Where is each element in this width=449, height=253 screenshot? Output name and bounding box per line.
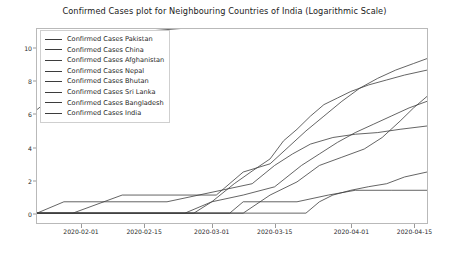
x-tick-mark	[144, 224, 145, 228]
legend-line-swatch	[45, 92, 62, 93]
legend-line-swatch	[45, 71, 62, 72]
y-tick-label: 2	[12, 177, 32, 184]
y-tick-label: 4	[12, 144, 32, 151]
x-tick-mark	[275, 224, 276, 228]
chart-title: Confirmed Cases plot for Neighbouring Co…	[0, 6, 449, 16]
series-line	[37, 126, 427, 213]
legend-item: Confirmed Cases Pakistan	[45, 34, 164, 45]
legend-label: Confirmed Cases Pakistan	[67, 36, 153, 43]
x-tick-mark	[351, 224, 352, 228]
legend-label: Confirmed Cases India	[67, 110, 141, 117]
x-tick-label: 2020-02-15	[126, 228, 161, 235]
y-tick-label: 0	[12, 211, 32, 218]
y-tick-label: 10	[12, 44, 32, 51]
legend-line-swatch	[45, 49, 62, 50]
series-line	[37, 172, 427, 213]
x-tick-mark	[212, 224, 213, 228]
y-tick-label: 6	[12, 111, 32, 118]
legend-line-swatch	[45, 81, 62, 82]
legend-label: Confirmed Cases Afghanistan	[67, 57, 164, 64]
legend-item: Confirmed Cases Sri Lanka	[45, 87, 164, 98]
x-tick-label: 2020-04-15	[397, 228, 432, 235]
legend-line-swatch	[45, 102, 62, 103]
legend-line-swatch	[45, 60, 62, 61]
x-tick-label: 2020-03-01	[194, 228, 229, 235]
legend-label: Confirmed Cases Sri Lanka	[67, 89, 155, 96]
y-tick-label: 8	[12, 78, 32, 85]
legend-item: Confirmed Cases Bhutan	[45, 76, 164, 87]
x-tick-label: 2020-04-01	[334, 228, 369, 235]
legend-item: Confirmed Cases China	[45, 45, 164, 56]
legend-label: Confirmed Cases China	[67, 47, 144, 54]
legend-line-swatch	[45, 39, 62, 40]
legend-label: Confirmed Cases Bangladesh	[67, 100, 164, 107]
chart-figure: Confirmed Cases plot for Neighbouring Co…	[0, 0, 449, 253]
legend-label: Confirmed Cases Nepal	[67, 68, 144, 75]
legend-item: Confirmed Cases Afghanistan	[45, 55, 164, 66]
x-tick-mark	[414, 224, 415, 228]
legend-line-swatch	[45, 113, 62, 114]
legend-item: Confirmed Cases Bangladesh	[45, 98, 164, 109]
x-tick-mark	[81, 224, 82, 228]
chart-legend: Confirmed Cases PakistanConfirmed Cases …	[40, 30, 170, 123]
x-tick-label: 2020-02-01	[63, 228, 98, 235]
legend-item: Confirmed Cases India	[45, 108, 164, 119]
legend-label: Confirmed Cases Bhutan	[67, 78, 149, 85]
x-tick-label: 2020-03-15	[257, 228, 292, 235]
legend-item: Confirmed Cases Nepal	[45, 66, 164, 77]
